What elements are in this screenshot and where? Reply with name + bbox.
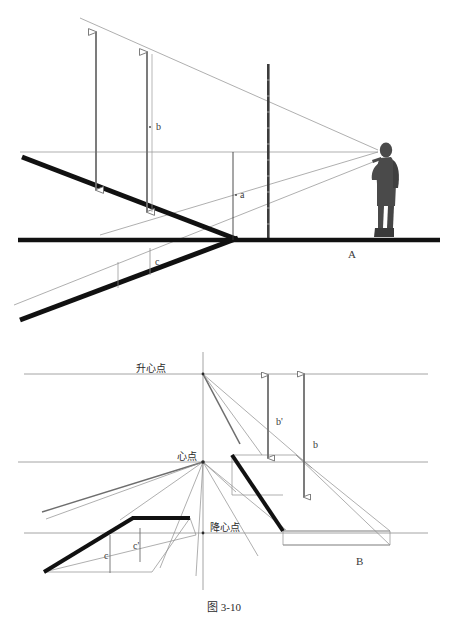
dimension-label-b-prime: b' xyxy=(276,416,283,427)
label-rising-center-point: 升心点 xyxy=(136,363,166,374)
dimension-label-b-lower: b xyxy=(313,439,318,450)
rising-center-dot xyxy=(202,373,205,376)
sight-line-mid xyxy=(100,152,378,235)
dimension-label-c-b: c xyxy=(104,550,109,561)
sight-line-lower xyxy=(14,160,378,305)
rays-from-rising-center xyxy=(203,374,312,468)
measuring-rod-b xyxy=(147,52,152,212)
dimension-b-dot xyxy=(149,126,151,128)
panel-a-ramp-edges xyxy=(18,157,440,320)
dimension-a xyxy=(233,152,237,240)
falling-center-dot xyxy=(202,532,205,535)
perspective-diagram-svg: A a b c xyxy=(0,0,449,628)
ray-center-right-1 xyxy=(203,462,258,556)
ray-rising-2 xyxy=(203,374,312,468)
dimension-label-a: a xyxy=(240,189,245,200)
label-falling-center-point: 降心点 xyxy=(210,521,240,533)
panel-b-reference-lines xyxy=(18,352,428,590)
left-ramp-diagonal xyxy=(44,535,196,572)
center-dot xyxy=(201,460,205,464)
ray-center-right-3 xyxy=(203,462,236,492)
right-ramp-side-plane xyxy=(232,455,283,495)
panel-a-label: A xyxy=(348,248,356,260)
ray-center-down-2 xyxy=(196,462,203,576)
ray-rising-thick xyxy=(203,374,240,444)
right-ramp-slope-edge xyxy=(232,455,283,531)
left-ramp-slope-edge xyxy=(44,518,133,572)
dimension-label-c: c xyxy=(155,256,160,267)
ray-center-left-1 xyxy=(46,462,203,519)
ramp-edge-ascending xyxy=(20,238,238,320)
dimension-label-c-prime: c' xyxy=(133,540,139,551)
panel-b-label: B xyxy=(356,555,363,567)
observer-figure xyxy=(372,143,399,237)
figure-caption: 图 3-10 xyxy=(207,601,241,613)
ray-center-thick-left xyxy=(42,462,203,512)
ray-rising-1 xyxy=(203,374,262,455)
panel-b-left-ramp xyxy=(44,518,196,573)
panel-a-group: A a b c xyxy=(14,18,440,320)
figure-3-10: A a b c xyxy=(0,0,449,628)
dimension-label-b: b xyxy=(156,121,161,132)
panel-a-sight-lines xyxy=(14,18,378,305)
panel-b-right-ramp xyxy=(232,455,390,545)
label-center-point: 心点 xyxy=(177,451,197,462)
panel-b-group: 升心点 心点 降心点 b' b c c' B xyxy=(18,352,428,590)
dimension-a-dot xyxy=(235,194,237,196)
ray-center-down-1 xyxy=(160,462,203,568)
measuring-post xyxy=(267,64,270,240)
ray-center-left-2 xyxy=(120,462,203,520)
left-ramp-right-edge xyxy=(190,518,196,535)
right-ramp-far-edge xyxy=(296,455,390,545)
sight-line-upper xyxy=(80,18,378,150)
